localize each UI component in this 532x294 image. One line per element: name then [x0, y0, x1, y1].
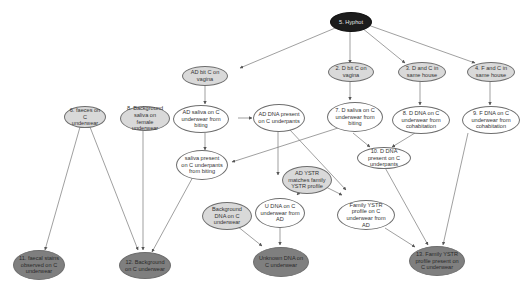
- node-d-bit-c-on-vagina[interactable]: 2. D bit C on vagina: [328, 62, 374, 82]
- node-d-dna-present[interactable]: 10. D DNA present on C underpants: [357, 147, 411, 169]
- node-u-dna-from-ad[interactable]: U DNA on C underwear from AD: [255, 198, 305, 228]
- node-d-c-same-house[interactable]: 3. D and C in same house: [398, 62, 446, 82]
- node-ad-ystr-match[interactable]: AD YSTR matches family YSTR profile: [282, 166, 332, 194]
- node-background-saliva[interactable]: 8. Background saliva on female underwear: [120, 106, 170, 131]
- node-faecal-stains-observed[interactable]: 11. faecal stains observed on C underwea…: [13, 250, 65, 280]
- node-family-ystr-from-ad[interactable]: Family YSTR profile on C underwear from …: [337, 200, 395, 230]
- node-faeces-on-underwear[interactable]: 6. faeces on C underwear: [64, 106, 106, 128]
- node-background-on-underwear[interactable]: 12. Background on C underwear: [119, 252, 171, 279]
- bayesian-network-diagram: 5. Hyphot AD bit C on vagina 2. D bit C …: [0, 0, 532, 294]
- node-d-saliva-biting[interactable]: 7. D saliva on C underwear from biting: [327, 102, 383, 132]
- node-f-c-same-house[interactable]: 4. F and C in same house: [467, 62, 515, 82]
- node-saliva-present[interactable]: saliva present on C underpants from biti…: [176, 150, 228, 180]
- node-ad-bit-c-on-vagina[interactable]: AD bit C on vagina: [182, 66, 228, 86]
- node-family-ystr-present[interactable]: 13. Family YSTR profile present on C und…: [409, 246, 465, 276]
- node-ad-dna-present[interactable]: AD DNA present on C underpants: [253, 104, 305, 132]
- node-unknown-dna[interactable]: Unknown DNA on C underwear: [253, 247, 309, 277]
- node-ad-saliva-biting[interactable]: AD saliva on C underwear from biting: [173, 105, 229, 133]
- node-f-dna-cohabitation[interactable]: 9. F DNA on C underwear from cohabitatio…: [462, 106, 520, 134]
- node-d-dna-cohabitation[interactable]: 8. D DNA on C underwear from cohabitatio…: [392, 106, 450, 134]
- node-background-dna[interactable]: Background DNA on C underwear: [202, 202, 252, 230]
- node-hypothesis[interactable]: 5. Hyphot: [330, 12, 372, 32]
